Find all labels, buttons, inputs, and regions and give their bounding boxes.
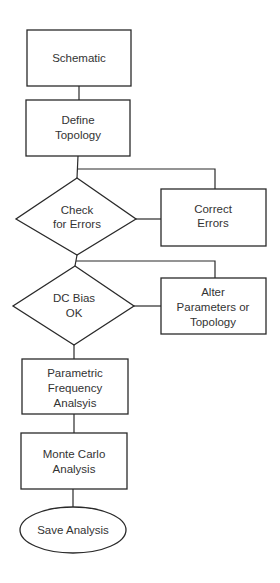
node-label: Schematic [52,52,106,64]
node-label: Errors [197,217,229,229]
node-label: Topology [190,316,236,328]
edge-define-check [77,156,78,178]
edge-alter-loop-top [76,261,215,278]
node-label: Topology [55,129,101,141]
node-label: Alter [201,286,225,298]
node-label: Parameters or [177,301,250,313]
node-label: Parametric [47,367,103,379]
node-monte-carlo: Monte Carlo Analysis [21,433,127,489]
node-label: Analysis [53,463,96,475]
node-label: OK [66,307,83,319]
node-label: Correct [194,203,233,215]
node-label: Monte Carlo [43,448,106,460]
node-correct-errors: Correct Errors [161,189,266,246]
node-label: Frequency [48,382,103,394]
node-dc-bias: DC Bias OK [13,266,134,345]
edge-correct-loop-top [77,169,215,189]
process-box [21,433,127,489]
node-check-errors: Check for Errors [16,178,136,255]
node-save-analysis: Save Analysis [20,507,126,553]
node-label: for Errors [53,218,101,230]
node-label: Analsyis [54,397,97,409]
decision-diamond [13,266,134,345]
decision-diamond [16,178,136,255]
node-label: Save Analysis [37,524,109,536]
node-schematic: Schematic [27,30,131,86]
node-alter-parameters: Alter Parameters or Topology [161,278,266,334]
node-label: DC Bias [53,292,95,304]
node-define-topology: Define Topology [26,100,130,156]
flowchart: Schematic Define Topology Check for Erro… [0,0,280,583]
node-parametric-frequency: Parametric Frequency Analsyis [22,359,128,414]
process-box [26,100,130,156]
node-label: Check [61,204,94,216]
node-label: Define [61,114,94,126]
